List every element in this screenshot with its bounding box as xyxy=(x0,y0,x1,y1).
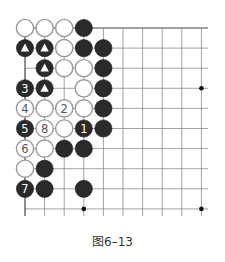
white-stone xyxy=(56,40,73,57)
move-number: 8 xyxy=(41,122,48,136)
figure-caption: 图6–13 xyxy=(0,232,225,249)
white-stone xyxy=(16,19,33,36)
black-stone xyxy=(75,19,92,36)
move-number: 5 xyxy=(21,122,28,136)
move-number: 6 xyxy=(21,142,28,156)
star-point xyxy=(82,207,87,212)
go-board: 34258167 xyxy=(0,0,225,230)
black-stone xyxy=(95,60,112,77)
black-stone xyxy=(75,40,92,57)
white-stone xyxy=(36,19,53,36)
star-point xyxy=(199,86,204,91)
black-stone: 7 xyxy=(16,180,33,197)
black-stone xyxy=(36,60,53,77)
white-stone xyxy=(75,100,92,117)
move-number: 7 xyxy=(21,182,28,196)
black-stone xyxy=(95,100,112,117)
white-stone xyxy=(75,60,92,77)
black-stone: 3 xyxy=(16,80,33,97)
black-stone xyxy=(36,160,53,177)
black-stone xyxy=(16,40,33,57)
black-stone: 1 xyxy=(75,120,92,137)
black-stone xyxy=(75,180,92,197)
white-stone: 8 xyxy=(36,120,53,137)
move-number: 1 xyxy=(80,122,87,136)
black-stone xyxy=(36,40,53,57)
white-stone xyxy=(16,160,33,177)
move-number: 2 xyxy=(61,102,68,116)
move-number: 4 xyxy=(21,102,28,116)
black-stone xyxy=(95,80,112,97)
black-stone xyxy=(95,40,112,57)
white-stone xyxy=(56,19,73,36)
black-stone xyxy=(36,180,53,197)
star-point xyxy=(199,207,204,212)
black-stone xyxy=(75,140,92,157)
white-stone xyxy=(56,120,73,137)
white-stone: 2 xyxy=(56,100,73,117)
black-stone xyxy=(95,120,112,137)
black-stone: 5 xyxy=(16,120,33,137)
black-stone xyxy=(36,80,53,97)
white-stone: 6 xyxy=(16,140,33,157)
white-stone xyxy=(75,80,92,97)
white-stone xyxy=(56,60,73,77)
white-stone: 4 xyxy=(16,100,33,117)
black-stone xyxy=(56,140,73,157)
white-stone xyxy=(36,140,53,157)
move-number: 3 xyxy=(21,82,28,96)
white-stone xyxy=(36,100,53,117)
